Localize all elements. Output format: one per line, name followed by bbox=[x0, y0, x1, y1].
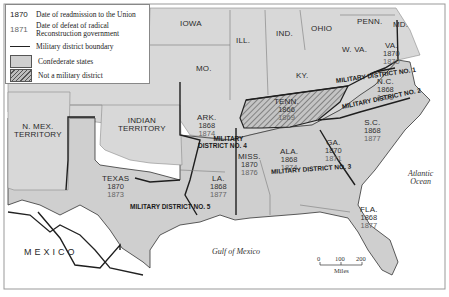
state-ark: ARK. 1868 1874 bbox=[197, 114, 216, 137]
label-district-5: MILITARY DISTRICT NO. 5 bbox=[130, 203, 210, 210]
legend-defeat-label-2: Reconstruction government bbox=[36, 30, 119, 38]
legend-readmission: 1870 Date of readmission to the Union bbox=[10, 10, 136, 19]
state-tenn: TENN. 1866 1869 bbox=[274, 98, 299, 121]
nmex-territory bbox=[8, 92, 70, 190]
scale-0: 0 bbox=[317, 256, 320, 263]
label-mexico: MEXICO bbox=[24, 248, 78, 257]
legend-boundary: Military district boundary bbox=[10, 43, 114, 51]
label-ill: ILL. bbox=[236, 37, 250, 45]
legend-defeat: 1871 Date of defeat of radical Reconstru… bbox=[10, 22, 119, 38]
hatch-swatch bbox=[10, 69, 32, 82]
label-penn: PENN. bbox=[357, 18, 382, 26]
state-miss: MISS. 1870 1876 bbox=[238, 153, 261, 176]
scale-unit: Miles bbox=[334, 268, 349, 275]
state-ga: GA. 1870 1871 bbox=[325, 139, 342, 162]
label-ohio: OHIO bbox=[311, 25, 332, 33]
label-district-4: MILITARY DISTRICT NO. 4 bbox=[198, 135, 247, 149]
state-va: VA. 1870 1870 bbox=[383, 42, 400, 65]
label-atlantic-ocean: Atlantic Ocean bbox=[408, 170, 433, 186]
state-texas: TEXAS 1870 1873 bbox=[102, 175, 129, 198]
scale-100: 100 bbox=[335, 256, 345, 263]
state-fla: FLA. 1868 1877 bbox=[360, 206, 378, 229]
confederate-swatch bbox=[10, 55, 32, 68]
legend-boundary-label: Military district boundary bbox=[36, 43, 114, 51]
label-ind: IND. bbox=[276, 30, 293, 38]
label-iowa: IOWA bbox=[180, 20, 202, 28]
state-sc: S.C. 1868 1877 bbox=[364, 119, 381, 142]
label-wva: W. VA. bbox=[342, 46, 367, 54]
legend-defeat-sample: 1871 bbox=[10, 25, 36, 34]
label-indian-territory: INDIAN TERRITORY bbox=[118, 117, 166, 133]
boundary-line-swatch bbox=[10, 46, 30, 47]
legend-not-district-label: Not a military district bbox=[38, 72, 103, 80]
legend: 1870 Date of readmission to the Union 18… bbox=[5, 4, 150, 84]
scale-200: 200 bbox=[356, 256, 366, 263]
state-la: LA. 1868 1877 bbox=[210, 175, 227, 198]
legend-confederate-label: Confederate states bbox=[38, 58, 93, 66]
label-md: MD. bbox=[393, 21, 408, 29]
label-nmex-territory: N. MEX. TERRITORY bbox=[14, 123, 62, 139]
label-gulf-of-mexico: Gulf of Mexico bbox=[212, 248, 260, 256]
legend-not-district: Not a military district bbox=[10, 69, 103, 82]
label-ky: KY. bbox=[296, 72, 308, 80]
legend-confederate: Confederate states bbox=[10, 55, 93, 68]
legend-readmission-label: Date of readmission to the Union bbox=[36, 11, 136, 19]
legend-readmission-sample: 1870 bbox=[10, 10, 36, 19]
label-mo: MO. bbox=[196, 65, 212, 73]
